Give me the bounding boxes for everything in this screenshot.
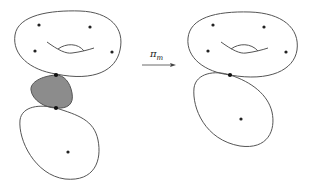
left-shaded-sphere xyxy=(31,75,72,108)
marked-point xyxy=(88,25,91,28)
marked-point xyxy=(37,23,40,26)
left-curve xyxy=(15,11,121,179)
marked-point xyxy=(110,50,113,53)
marked-point xyxy=(262,25,265,28)
right-handle-inner xyxy=(231,45,258,51)
left-handle-inner xyxy=(58,45,84,51)
marked-point xyxy=(284,50,287,53)
arrow-label: πm xyxy=(150,48,163,62)
arrow xyxy=(142,63,176,67)
arrow-label-main: π xyxy=(150,48,157,59)
node-point xyxy=(54,106,58,110)
node-point xyxy=(54,73,58,77)
left-bottom-sphere xyxy=(20,106,99,179)
stabilization-diagram xyxy=(0,0,312,192)
marked-point xyxy=(66,150,69,153)
marked-point xyxy=(206,49,209,52)
marked-point xyxy=(33,49,36,52)
arrow-label-sub: m xyxy=(157,54,164,62)
right-handle-outer xyxy=(221,42,268,53)
right-points xyxy=(206,23,287,120)
right-curve xyxy=(188,12,297,147)
left-top-surface xyxy=(15,11,121,77)
left-handle-outer xyxy=(47,42,94,53)
right-bottom-sphere xyxy=(194,73,273,147)
marked-point xyxy=(239,117,242,120)
marked-point xyxy=(211,23,214,26)
node-point xyxy=(228,73,232,77)
